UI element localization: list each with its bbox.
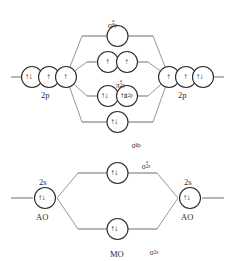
mo-label: MO	[110, 250, 124, 259]
lower-2s-block	[11, 163, 224, 240]
sigma-2px-anti-sub: 2px	[112, 23, 117, 28]
right-2p-orbital-3	[193, 67, 214, 88]
upper-2p-block	[11, 26, 224, 133]
left-2s-orbital	[35, 188, 56, 209]
left-ao-label: AO	[36, 213, 48, 222]
right-2p-label: 2p	[178, 91, 187, 100]
sigma-2px-orbital	[107, 112, 128, 133]
sigma-2s-anti-sub: 2s	[146, 164, 151, 169]
right-ao-label: AO	[181, 213, 193, 222]
sigma-2s-anti-orbital	[107, 163, 128, 184]
sigma-2s-orbital	[107, 219, 128, 240]
left-2s-label: 2s	[39, 178, 47, 187]
corr-line-left-sigma-2s-anti	[57, 173, 78, 198]
left-2p-orbital-3	[56, 67, 77, 88]
pi-antibonding-orbital-1	[98, 52, 119, 73]
sigma-2px-sub: 2px	[136, 143, 141, 148]
corr-line-left-sigma-2s	[57, 198, 78, 229]
pi-2p-antibonding-label: π*2p	[116, 81, 120, 90]
pi-2p-anti-sub: 2p	[120, 83, 125, 88]
pi-2p-bonding-label: π2p	[124, 91, 128, 100]
sigma-2px-bonding-label: σ2px	[132, 141, 136, 150]
sigma-2s-bonding-label: σ2s	[150, 248, 154, 257]
right-2s-orbital	[180, 188, 201, 209]
pi-2p-sub: 2p	[128, 93, 133, 98]
left-2p-label: 2p	[41, 91, 50, 100]
right-2s-label: 2s	[184, 178, 192, 187]
pi-antibonding-orbital-2	[117, 52, 138, 73]
corr-line-right-sigma-2s-anti	[157, 173, 178, 198]
corr-line-right-sigma-2s	[157, 198, 178, 229]
sigma-2px-antibonding-label: σ*2px	[108, 21, 112, 30]
sigma-2s-antibonding-label: σ*2s	[142, 162, 146, 171]
sigma-2s-sub: 2s	[154, 250, 159, 255]
